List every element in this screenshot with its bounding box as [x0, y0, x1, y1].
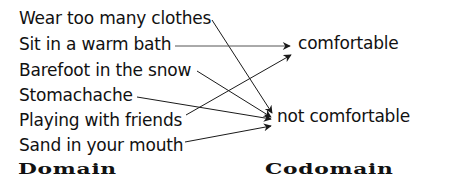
mapping-arrows: [0, 0, 451, 187]
mapping-diagram: Wear too many clothes Sit in a warm bath…: [0, 0, 451, 187]
arrow-playing-to-comfortable: [186, 55, 291, 115]
arrow-stomachache-to-not-comfortable: [137, 97, 271, 119]
arrow-sand-to-not-comfortable: [185, 126, 271, 142]
